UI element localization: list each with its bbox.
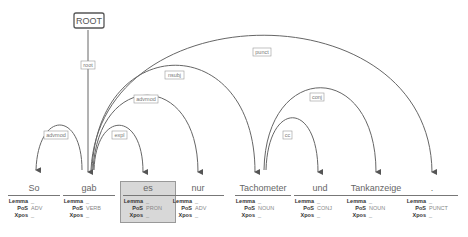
token-so[interactable]: So Lemma_ PoSADV Xpos_: [6, 182, 62, 219]
token-form: nur: [172, 182, 224, 196]
arc-label-expl: expl: [114, 132, 124, 138]
token-form: es: [123, 182, 173, 196]
token-und[interactable]: und Lemma_ PoSCONJ Xpos_: [292, 182, 348, 219]
token-form: So: [8, 182, 60, 196]
token-form: Tankanzeige: [346, 182, 406, 196]
token-nur[interactable]: nur Lemma_ PoSADV Xpos_: [170, 182, 226, 219]
token-form: und: [294, 182, 346, 196]
arc-label-advmod-nur: advmod: [136, 96, 156, 102]
token-form: .: [406, 182, 458, 196]
token-form: Tachometer: [235, 182, 291, 196]
arc-label-punct: punct: [255, 49, 269, 55]
arc-label-advmod-so: advmod: [46, 132, 66, 138]
arc-label-root: root: [83, 62, 93, 68]
root-label: ROOT: [76, 16, 103, 26]
arc-cc: [266, 118, 318, 172]
token-period[interactable]: . Lemma_ PoSPUNCT Xpos_: [404, 182, 460, 219]
token-form: gab: [63, 182, 115, 196]
arc-label-conj: conj: [312, 94, 322, 100]
token-tankanzeige[interactable]: Tankanzeige Lemma_ PoSNOUN Xpos_: [344, 182, 408, 219]
arc-nsubj: [92, 65, 255, 172]
token-es-selected[interactable]: es Lemma_ PoSPRON Xpos_: [120, 181, 176, 223]
arc-label-cc: cc: [285, 132, 291, 138]
token-tachometer[interactable]: Tachometer Lemma_ PoSNOUN Xpos_: [233, 182, 293, 219]
arc-labels: root advmod expl advmod nsubj punct conj…: [44, 48, 324, 139]
token-gab[interactable]: gab Lemma_ PoSVERB Xpos_: [61, 182, 117, 219]
arc-label-nsubj: nsubj: [168, 72, 181, 78]
